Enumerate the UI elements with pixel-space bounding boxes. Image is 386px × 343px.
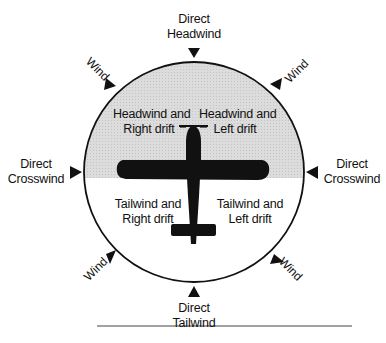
label-direct-headwind: Direct Headwind [163,12,225,42]
label-tailwind-left-drift: Tailwind and Left drift [214,197,286,227]
arrow-right-icon [70,166,82,179]
label-direct-crosswind-right: Direct Crosswind [320,157,384,187]
arrow-down-icon [188,48,200,58]
label-direct-crosswind-left: Direct Crosswind [4,157,68,187]
label-direct-tailwind: Direct Tailwind [163,301,225,331]
label-headwind-left-drift: Headwind and Left drift [199,107,271,137]
arrow-left-icon [306,166,318,179]
arrow-diag-icon [270,78,282,90]
label-tailwind-right-drift: Tailwind and Right drift [112,197,184,227]
arrow-up-icon [188,286,200,297]
label-headwind-right-drift: Headwind and Right drift [113,107,185,137]
